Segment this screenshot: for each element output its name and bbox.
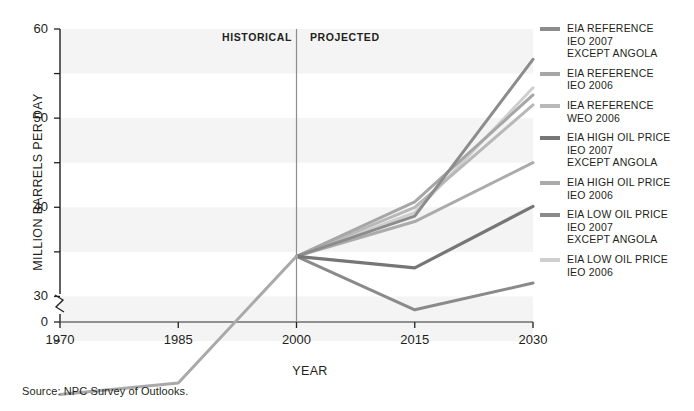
legend-item[interactable]: EIA LOW OIL PRICE IEO 2007 EXCEPT ANGOLA xyxy=(540,208,692,246)
legend-item[interactable]: EIA REFERENCE IEO 2006 xyxy=(540,67,692,92)
legend-label: EIA LOW OIL PRICE IEO 2006 xyxy=(567,253,668,278)
legend-label: EIA HIGH OIL PRICE IEO 2006 xyxy=(567,176,671,201)
x-tick-label: 2015 xyxy=(385,332,445,347)
legend-swatch-icon xyxy=(540,213,560,217)
legend-item[interactable]: IEA REFERENCE WEO 2006 xyxy=(540,99,692,124)
y-axis-title: MILLION BARRELS PER DAY xyxy=(31,72,45,292)
legend-swatch-icon xyxy=(540,181,560,185)
legend-label: EIA HIGH OIL PRICE IEO 2007 EXCEPT ANGOL… xyxy=(567,131,671,169)
legend-item[interactable]: EIA LOW OIL PRICE IEO 2006 xyxy=(540,253,692,278)
legend-item[interactable]: EIA HIGH OIL PRICE IEO 2007 EXCEPT ANGOL… xyxy=(540,131,692,169)
y-tick-label: 0 xyxy=(14,314,48,329)
legend-item[interactable]: EIA HIGH OIL PRICE IEO 2006 xyxy=(540,176,692,201)
legend-label: IEA REFERENCE WEO 2006 xyxy=(567,99,654,124)
legend-swatch-icon xyxy=(540,136,560,140)
legend-label: EIA REFERENCE IEO 2007 EXCEPT ANGOLA xyxy=(567,22,658,60)
y-tick-label: 30 xyxy=(14,288,48,303)
y-tick-label: 50 xyxy=(14,110,48,125)
legend-swatch-icon xyxy=(540,72,560,76)
x-tick-label: 1970 xyxy=(30,332,90,347)
legend-label: EIA REFERENCE IEO 2006 xyxy=(567,67,654,92)
legend-swatch-icon xyxy=(540,104,560,108)
x-tick-label: 2000 xyxy=(267,332,327,347)
chart-legend: EIA REFERENCE IEO 2007 EXCEPT ANGOLAEIA … xyxy=(540,22,692,285)
y-tick-label: 60 xyxy=(14,21,48,36)
historical-label: HISTORICAL xyxy=(222,31,292,43)
projected-label: PROJECTED xyxy=(310,31,380,43)
x-tick-label: 2030 xyxy=(503,332,563,347)
y-tick-label: 40 xyxy=(14,199,48,214)
figure-root: MILLION BARRELS PER DAY YEAR 030405060 1… xyxy=(0,0,694,411)
source-note: Source: NPC Survey of Outlooks. xyxy=(22,385,188,397)
x-axis-title: YEAR xyxy=(250,364,370,378)
legend-item[interactable]: EIA REFERENCE IEO 2007 EXCEPT ANGOLA xyxy=(540,22,692,60)
legend-label: EIA LOW OIL PRICE IEO 2007 EXCEPT ANGOLA xyxy=(567,208,668,246)
legend-swatch-icon xyxy=(540,258,560,262)
x-tick-label: 1985 xyxy=(148,332,208,347)
legend-swatch-icon xyxy=(540,27,560,31)
